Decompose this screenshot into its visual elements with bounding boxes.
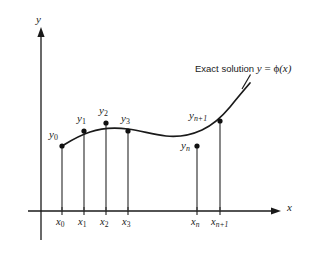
point-label-yn1: yn+1 bbox=[189, 110, 207, 123]
exact-solution-arg: (x) bbox=[279, 62, 291, 74]
exact-solution-equals: = bbox=[262, 62, 274, 74]
point-sub-yn: n bbox=[186, 144, 190, 153]
x-axis bbox=[28, 207, 281, 214]
tick-label-xn1: xn+1 bbox=[211, 217, 228, 229]
point-sub-yn1: n+1 bbox=[194, 114, 207, 123]
tick-sub-xn1: n+1 bbox=[216, 220, 229, 229]
tick-sub-x0: 0 bbox=[61, 220, 65, 229]
y-axis-label: y bbox=[36, 14, 41, 25]
tick-label-x1: x1 bbox=[78, 217, 86, 229]
exact-solution-curve bbox=[62, 83, 250, 146]
point-sub-y1: 1 bbox=[82, 117, 86, 126]
tick-label-xn: xn bbox=[191, 217, 199, 229]
x-axis-label: x bbox=[287, 202, 292, 213]
point-label-yn: yn bbox=[181, 140, 190, 153]
euler-method-figure: y x Exact solution y = ϕ(x) x0 x1 x2 x3 … bbox=[0, 0, 313, 255]
tick-sub-x2: 2 bbox=[105, 220, 109, 229]
point-sub-y0: 0 bbox=[54, 133, 58, 142]
tick-sub-xn: n bbox=[196, 220, 200, 229]
tick-sub-x3: 3 bbox=[127, 220, 131, 229]
ordinate-segments bbox=[62, 122, 220, 211]
point-sub-y2: 2 bbox=[104, 109, 108, 118]
tick-label-x0: x0 bbox=[56, 217, 64, 229]
figure-canvas bbox=[0, 0, 313, 255]
tick-label-x3: x3 bbox=[122, 217, 130, 229]
point-label-y1: y1 bbox=[77, 113, 86, 126]
point-label-y2: y2 bbox=[99, 105, 108, 118]
exact-solution-prefix: Exact solution bbox=[195, 63, 257, 74]
exact-solution-label: Exact solution y = ϕ(x) bbox=[195, 63, 291, 74]
tick-label-x2: x2 bbox=[100, 217, 108, 229]
y-axis bbox=[37, 27, 44, 240]
point-sub-y3: 3 bbox=[126, 117, 130, 126]
point-label-y0: y0 bbox=[49, 129, 58, 142]
point-label-y3: y3 bbox=[121, 113, 130, 126]
tick-sub-x1: 1 bbox=[83, 220, 87, 229]
